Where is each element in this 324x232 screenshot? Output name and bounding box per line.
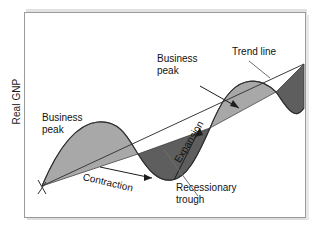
business-cycle-figure: Real GNP [0,0,324,232]
trend-line-leader [249,61,270,78]
frame-shadow-bottom [27,218,309,220]
annotation-recessionary-trough-line2: trough [176,194,237,206]
annotation-business-peak-1-line2: peak [42,124,83,136]
frame-shadow-right [306,15,309,220]
annotation-business-peak-1-line1: Business [42,112,83,124]
below-trend-region-final [276,64,304,114]
annotation-recessionary-trough: Recessionary trough [176,182,237,205]
above-trend-region-second [210,81,276,128]
annotation-trend-line: Trend line [232,46,276,58]
annotation-business-peak-2-line1: Business [157,53,198,65]
annotation-business-peak-1: Business peak [42,112,83,135]
y-axis-label: Real GNP [11,67,22,137]
annotation-business-peak-2-line2: peak [157,65,198,77]
annotation-business-peak-2: Business peak [157,53,198,76]
annotation-recessionary-trough-line1: Recessionary [176,182,237,194]
